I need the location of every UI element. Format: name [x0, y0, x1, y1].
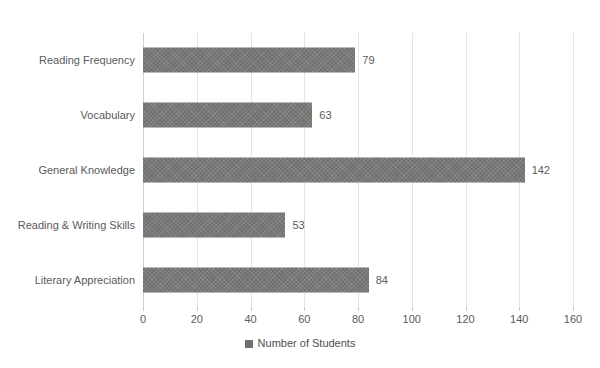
category-row: Vocabulary63 [143, 88, 573, 143]
horizontal-bar-chart: Reading Frequency79Vocabulary63General K… [0, 0, 600, 368]
x-axis-tick-mark [412, 307, 413, 311]
x-axis-tick-label: 0 [140, 314, 146, 325]
category-row: Literary Appreciation84 [143, 252, 573, 307]
chart-legend: Number of Students [0, 338, 600, 349]
legend-entry-label: Number of Students [258, 338, 356, 349]
x-axis-tick-label: 140 [510, 314, 528, 325]
x-axis-tick-mark [197, 307, 198, 311]
category-row: General Knowledge142 [143, 143, 573, 198]
x-axis: 020406080100120140160 [143, 307, 573, 331]
bar[interactable] [143, 267, 369, 292]
x-axis-tick-label: 100 [403, 314, 421, 325]
x-axis-tick-mark [466, 307, 467, 311]
bar-value-label: 84 [376, 274, 388, 285]
category-row: Reading Frequency79 [143, 33, 573, 88]
bar[interactable] [143, 212, 285, 237]
bar[interactable] [143, 48, 355, 73]
bar-value-label: 53 [292, 219, 304, 230]
category-axis-label: General Knowledge [38, 164, 135, 175]
x-axis-tick-label: 80 [352, 314, 364, 325]
category-axis-label: Reading Frequency [39, 55, 135, 66]
category-axis-label: Literary Appreciation [35, 274, 135, 285]
bar-value-label: 142 [532, 164, 550, 175]
x-axis-tick-label: 20 [191, 314, 203, 325]
category-row: Reading & Writing Skills53 [143, 197, 573, 252]
bar-group: 63 [143, 103, 332, 128]
category-axis-label: Reading & Writing Skills [18, 219, 135, 230]
x-axis-tick-mark [519, 307, 520, 311]
bar-value-label: 63 [319, 110, 331, 121]
bar-group: 84 [143, 267, 388, 292]
bar-group: 142 [143, 157, 550, 182]
bar-group: 79 [143, 48, 375, 73]
category-axis-label: Vocabulary [81, 110, 135, 121]
x-axis-tick-mark [251, 307, 252, 311]
x-axis-tick-mark [573, 307, 574, 311]
x-axis-tick-mark [143, 307, 144, 311]
bar-group: 53 [143, 212, 305, 237]
x-axis-tick-label: 120 [456, 314, 474, 325]
plot-area: Reading Frequency79Vocabulary63General K… [143, 33, 573, 307]
legend-swatch-icon [245, 340, 253, 348]
x-axis-tick-mark [358, 307, 359, 311]
x-axis-tick-label: 60 [298, 314, 310, 325]
bar[interactable] [143, 157, 525, 182]
x-axis-tick-label: 160 [564, 314, 582, 325]
gridline [573, 33, 574, 307]
bar[interactable] [143, 103, 312, 128]
x-axis-tick-mark [304, 307, 305, 311]
bar-value-label: 79 [362, 55, 374, 66]
x-axis-tick-label: 40 [244, 314, 256, 325]
